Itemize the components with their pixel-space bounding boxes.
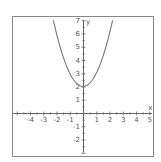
tick-labels: -4-3-2-1123457654321-1-2 xyxy=(27,17,152,144)
y-tick-label: -1 xyxy=(73,123,80,131)
y-tick-label: 1 xyxy=(76,96,80,104)
x-tick-label: 4 xyxy=(134,116,139,124)
y-tick-label: 7 xyxy=(76,17,80,25)
y-tick-label: 6 xyxy=(76,30,81,38)
x-axis-label: x xyxy=(148,104,152,112)
y-tick-label: 5 xyxy=(76,43,80,51)
y-tick-label: 4 xyxy=(76,57,81,65)
x-tick-label: 3 xyxy=(121,116,125,124)
function-graph: -4-3-2-1123457654321-1-2 x y xyxy=(0,0,161,162)
x-tick-label: 5 xyxy=(148,116,152,124)
x-tick-label: -2 xyxy=(54,116,61,124)
y-axis-label: y xyxy=(86,18,90,26)
x-tick-label: -4 xyxy=(27,116,35,124)
y-tick-label: 3 xyxy=(76,70,80,78)
y-tick-label: -2 xyxy=(73,136,80,144)
x-tick-label: 1 xyxy=(95,116,99,124)
x-tick-label: -3 xyxy=(40,116,47,124)
x-tick-label: 2 xyxy=(108,116,112,124)
